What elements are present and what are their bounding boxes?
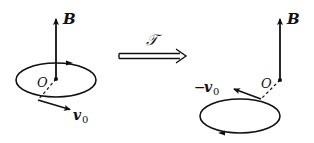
left-velocity-label: v 0 (73, 107, 88, 125)
right-b-label: B (286, 10, 300, 28)
time-reversal-diagram: B O v 0 𝒯 B O (0, 0, 314, 143)
right-origin-label: O (261, 76, 272, 91)
diagram-canvas: B O v 0 𝒯 B O (0, 0, 314, 143)
right-velocity-arrow (234, 89, 261, 99)
transform-operator: 𝒯 (119, 31, 186, 63)
left-b-label: B (62, 10, 76, 28)
right-velocity-label: − v 0 (194, 79, 219, 97)
right-figure: B O − v 0 (194, 10, 300, 136)
double-right-arrow-icon (119, 49, 186, 63)
left-figure: B O v 0 (16, 10, 96, 125)
svg-text:0: 0 (213, 86, 219, 97)
svg-text:v: v (73, 107, 82, 123)
time-reversal-operator-label: 𝒯 (146, 31, 162, 49)
svg-text:v: v (204, 79, 213, 95)
right-orbit-ellipse (200, 99, 280, 133)
svg-text:0: 0 (82, 114, 88, 125)
left-velocity-arrow (38, 100, 70, 110)
left-origin-label: O (37, 75, 48, 90)
